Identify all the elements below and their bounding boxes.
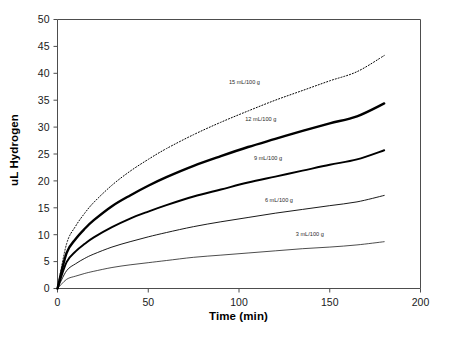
y-tick-label: 15 xyxy=(38,202,50,214)
x-tick-label: 0 xyxy=(55,296,61,308)
axis-frame xyxy=(58,20,421,289)
y-tick-label: 20 xyxy=(38,175,50,187)
y-tick-label: 0 xyxy=(44,282,50,294)
y-tick-mark-group xyxy=(54,20,58,289)
x-tick-label: 50 xyxy=(142,296,154,308)
series-label-12-ml-100-g: 12 mL/100 g xyxy=(245,116,276,122)
x-axis-title-text: Time (min) xyxy=(209,310,268,322)
x-tick-label: 100 xyxy=(230,296,248,308)
y-tick-label: 30 xyxy=(38,121,50,133)
x-tick-label: 200 xyxy=(412,296,430,308)
series-group xyxy=(58,56,385,289)
y-tick-label: 35 xyxy=(38,94,50,106)
x-tick-label-group: 050100150200 xyxy=(55,296,430,308)
y-tick-label: 40 xyxy=(38,67,50,79)
y-tick-label: 45 xyxy=(38,40,50,52)
series-line-12-ml-100-g xyxy=(58,103,385,288)
y-tick-label: 50 xyxy=(38,13,50,25)
series-label-6-ml-100-g: 6 mL/100 g xyxy=(265,197,293,203)
y-tick-label: 10 xyxy=(38,229,50,241)
x-axis-title: Time (min) xyxy=(57,310,420,322)
series-label-9-ml-100-g: 9 mL/100 g xyxy=(254,155,282,161)
series-label-15-ml-100-g: 15 mL/100 g xyxy=(229,79,260,85)
series-line-9-ml-100-g xyxy=(58,150,385,288)
plot-area: 05101520253035404550 050100150200 15 mL/… xyxy=(0,0,449,337)
plot-frame xyxy=(58,20,421,289)
y-tick-label: 5 xyxy=(44,255,50,267)
x-tick-mark-group xyxy=(58,289,421,293)
series-label-3-ml-100-g: 3 mL/100 g xyxy=(296,231,324,237)
chart-container: uL Hydrogen 05101520253035404550 0501001… xyxy=(0,0,449,337)
series-line-15-ml-100-g xyxy=(58,56,385,289)
x-tick-label: 150 xyxy=(321,296,339,308)
y-tick-label: 25 xyxy=(38,148,50,160)
y-tick-label-group: 05101520253035404550 xyxy=(38,13,50,294)
